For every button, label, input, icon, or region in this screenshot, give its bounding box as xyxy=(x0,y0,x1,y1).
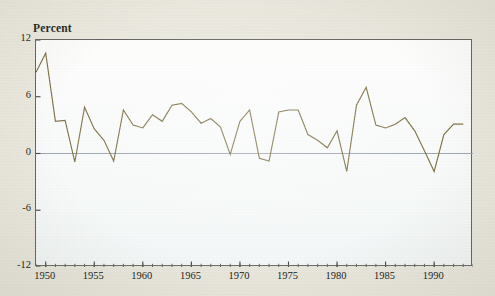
x-tick-label: 1975 xyxy=(267,270,307,281)
y-axis-title: Percent xyxy=(33,22,72,34)
y-tick-label: -12 xyxy=(5,259,31,270)
y-tick-label: 0 xyxy=(5,146,31,157)
x-tick-label: 1970 xyxy=(219,270,259,281)
x-tick-label: 1990 xyxy=(413,270,453,281)
x-tick-label: 1950 xyxy=(25,270,65,281)
y-axis-ticks xyxy=(36,40,41,267)
figure-page: Percent 1260-6-12 1950195519601965197019… xyxy=(0,0,495,296)
y-tick-label: 6 xyxy=(5,89,31,100)
x-axis-minor-ticks xyxy=(36,264,473,267)
x-tick-label: 1980 xyxy=(316,270,356,281)
x-tick-label: 1955 xyxy=(73,270,113,281)
x-tick-label: 1985 xyxy=(365,270,405,281)
line-chart-svg xyxy=(36,40,473,267)
x-tick-label: 1965 xyxy=(170,270,210,281)
y-tick-label: 12 xyxy=(5,32,31,43)
x-tick-label: 1960 xyxy=(122,270,162,281)
y-tick-label: -6 xyxy=(5,202,31,213)
plot-frame xyxy=(35,39,472,266)
